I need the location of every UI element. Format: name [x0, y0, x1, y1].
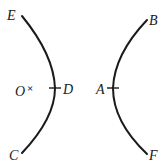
- label-c: C: [9, 148, 19, 163]
- label-a: A: [95, 82, 105, 97]
- label-o: O: [15, 84, 25, 99]
- hyperbola-diagram: E B O × D A C F: [0, 0, 165, 164]
- label-d: D: [62, 82, 73, 97]
- label-f: F: [148, 148, 158, 163]
- label-e: E: [6, 8, 16, 23]
- cross-marker-icon: ×: [27, 82, 33, 94]
- right-curve: [113, 20, 147, 154]
- label-b: B: [149, 13, 158, 28]
